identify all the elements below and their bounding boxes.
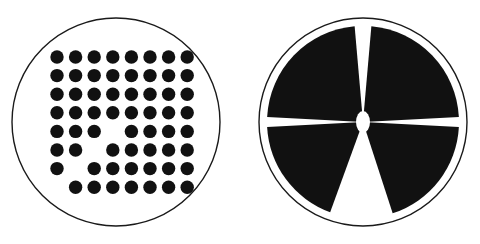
grid-dot	[88, 88, 101, 101]
grid-dot	[125, 125, 138, 138]
grid-dot	[162, 69, 175, 82]
grid-dot	[143, 50, 156, 63]
grid-dot	[181, 162, 194, 175]
grid-dot	[125, 143, 138, 156]
grid-dot	[125, 162, 138, 175]
grid-dot	[106, 69, 119, 82]
grid-dot	[50, 162, 63, 175]
grid-dot	[162, 88, 175, 101]
grid-dot	[125, 88, 138, 101]
grid-dot	[162, 50, 175, 63]
grid-dot	[106, 106, 119, 119]
grid-dot	[181, 143, 194, 156]
grid-dot	[143, 106, 156, 119]
grid-dot	[88, 69, 101, 82]
grid-dot	[69, 125, 82, 138]
grid-dot	[162, 162, 175, 175]
grid-dot	[88, 125, 101, 138]
grid-dot	[50, 106, 63, 119]
grid-dot	[143, 69, 156, 82]
grid-dot	[69, 50, 82, 63]
grid-dot	[106, 88, 119, 101]
grid-dot	[125, 106, 138, 119]
grid-dot	[143, 125, 156, 138]
grid-dot	[125, 69, 138, 82]
grid-dot	[69, 69, 82, 82]
grid-dot	[50, 143, 63, 156]
grid-dot	[50, 125, 63, 138]
grid-dot	[162, 143, 175, 156]
grid-dot	[88, 181, 101, 194]
figure-canvas	[0, 0, 480, 244]
grid-dot	[69, 88, 82, 101]
grid-dot	[50, 88, 63, 101]
grid-dot	[50, 69, 63, 82]
grid-dot	[181, 181, 194, 194]
canvas-background	[0, 0, 480, 244]
grid-dot	[106, 143, 119, 156]
grid-dot	[143, 181, 156, 194]
grid-dot	[162, 125, 175, 138]
grid-dot	[106, 50, 119, 63]
figure-panel	[0, 0, 480, 244]
grid-dot	[181, 106, 194, 119]
grid-dot	[181, 69, 194, 82]
grid-dot	[181, 125, 194, 138]
grid-dot	[106, 181, 119, 194]
grid-dot	[143, 143, 156, 156]
center-hub	[356, 111, 370, 133]
grid-dot	[181, 50, 194, 63]
grid-dot	[69, 181, 82, 194]
grid-dot	[106, 162, 119, 175]
grid-dot	[88, 50, 101, 63]
grid-dot	[88, 106, 101, 119]
grid-dot	[69, 143, 82, 156]
grid-dot	[162, 181, 175, 194]
grid-dot	[143, 88, 156, 101]
grid-dot	[88, 162, 101, 175]
grid-dot	[181, 88, 194, 101]
grid-dot	[162, 106, 175, 119]
grid-dot	[50, 50, 63, 63]
grid-dot	[143, 162, 156, 175]
grid-dot	[125, 181, 138, 194]
grid-dot	[69, 106, 82, 119]
grid-dot	[125, 50, 138, 63]
